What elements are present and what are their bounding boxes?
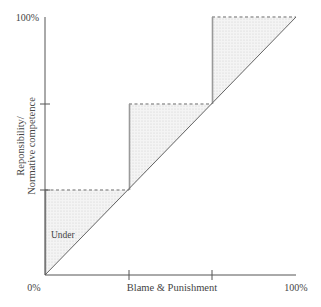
y-axis-title-line1: Reponsibility/ — [15, 116, 26, 176]
y-axis-title-line2: Normative competence — [26, 97, 37, 195]
x-axis-max-label: 100% — [284, 282, 307, 293]
y-axis-title: Reponsibility/ Normative competence — [15, 97, 37, 195]
y-axis-max-label: 100% — [16, 12, 39, 23]
shaded-triangle-2 — [129, 104, 212, 190]
diagonal-line — [45, 17, 296, 275]
diagram-canvas: 100% 0% 100% Blame & Punishment Under Re… — [0, 0, 321, 307]
x-axis-min-label: 0% — [27, 282, 40, 293]
region-label-under: Under — [51, 230, 76, 240]
x-axis-title: Blame & Punishment — [127, 282, 217, 293]
